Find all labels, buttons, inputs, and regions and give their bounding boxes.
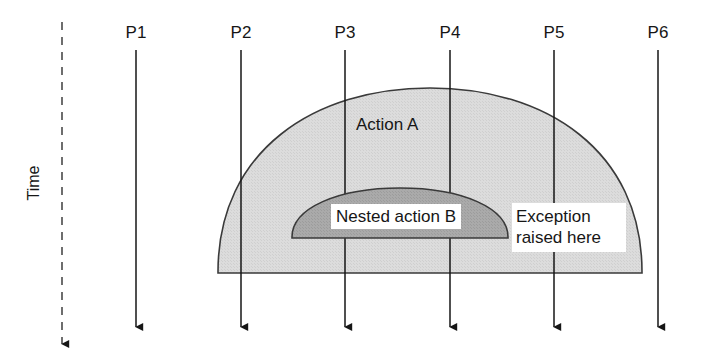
nested-action-label: Nested action B [331,204,461,229]
exception-callout: Exception raised here [512,203,626,252]
participant-label-p3: P3 [325,22,365,43]
exception-callout-line-2: raised here [516,227,626,248]
participant-label-p6: P6 [638,22,678,43]
diagram-canvas: P1 P2 P3 P4 P5 P6 Time Action A Nested a… [0,0,706,364]
diagram-graphics [0,0,706,364]
participant-label-p5: P5 [534,22,574,43]
participant-label-p4: P4 [430,22,470,43]
participant-label-p2: P2 [221,22,261,43]
time-axis-label: Time [24,166,44,201]
exception-callout-line-1: Exception [516,206,626,227]
outer-action-label: Action A [356,114,418,135]
participant-label-p1: P1 [116,22,156,43]
